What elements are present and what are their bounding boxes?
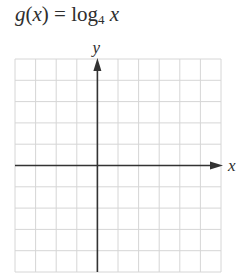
y-axis-label: y [90, 38, 100, 57]
coordinate-grid: x y [0, 0, 245, 276]
x-axis-label: x [227, 156, 236, 175]
y-axis-arrow-icon [93, 58, 101, 71]
axes [15, 58, 223, 272]
